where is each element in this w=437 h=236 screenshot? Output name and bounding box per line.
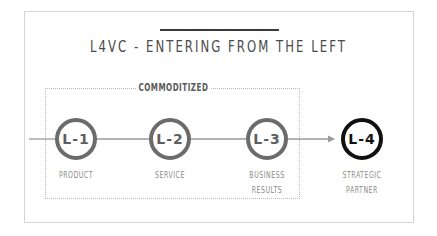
connector-lines [0,0,437,236]
caption-l1: PRODUCT [39,168,113,183]
caption-line: BUSINESS [230,168,304,183]
node-label: L-4 [348,131,375,147]
node-label: L-1 [62,131,89,147]
caption-line: SERVICE [133,168,207,183]
node-label: L-3 [253,131,280,147]
caption-l4: STRATEGIC PARTNER [325,168,399,198]
caption-l2: SERVICE [133,168,207,183]
caption-line: PARTNER [325,183,399,198]
caption-line: RESULTS [230,183,304,198]
caption-l3: BUSINESS RESULTS [230,168,304,198]
caption-line: STRATEGIC [325,168,399,183]
arrowhead-icon [328,136,335,143]
node-l2: L-2 [149,118,191,160]
node-label: L-2 [156,131,183,147]
caption-line: PRODUCT [39,168,113,183]
node-l4: L-4 [341,118,383,160]
node-l3: L-3 [246,118,288,160]
node-l1: L-1 [55,118,97,160]
